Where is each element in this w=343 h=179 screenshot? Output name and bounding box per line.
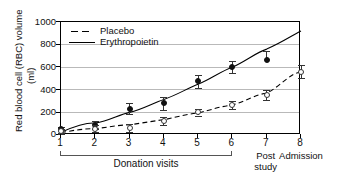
x-tick-label-2: 2 — [82, 137, 106, 148]
errorcap-pbo-4-bottom — [160, 125, 167, 126]
errorcap-epo-5-top — [195, 75, 202, 76]
errorcap-pbo-2-bottom — [92, 132, 99, 133]
errorcap-pbo-8-top — [298, 65, 305, 66]
x-cat-admission: Admission — [266, 151, 336, 162]
x-tick-label-6: 6 — [219, 137, 243, 148]
errorcap-epo-7-top — [263, 51, 270, 52]
datapoint-epo-3 — [127, 106, 133, 112]
x-tick-label-5: 5 — [185, 137, 209, 148]
donation-visits-bracket — [60, 151, 232, 156]
x-group-label-donation-visits: Donation visits — [60, 158, 232, 169]
errorcap-epo-3-top — [126, 103, 133, 104]
x-tick-label-4: 4 — [151, 137, 175, 148]
x-tick-label-7: 7 — [254, 137, 278, 148]
errorcap-pbo-6-bottom — [229, 109, 236, 110]
x-cat-post-study-line2: study — [243, 162, 289, 173]
datapoint-pbo-2 — [92, 126, 98, 132]
errorcap-epo-5-bottom — [195, 88, 202, 89]
errorcap-pbo-1-bottom — [58, 134, 65, 135]
x-tick-label-1: 1 — [48, 137, 72, 148]
errorcap-epo-3-bottom — [126, 114, 133, 115]
errorcap-pbo-8-bottom — [298, 78, 305, 79]
errorcap-pbo-5-bottom — [195, 116, 202, 117]
fit-curves — [61, 22, 301, 135]
y-tick-label-1000: 1000 — [24, 17, 56, 27]
plot-area: Placebo Erythropoietin — [60, 21, 300, 134]
errorcap-epo-4-top — [160, 97, 167, 98]
x-tick-label-8: 8 — [288, 137, 312, 148]
datapoint-pbo-7 — [264, 92, 270, 98]
chart-figure: Red blood cell (RBC) volume (ml) 1000 80… — [0, 0, 343, 179]
errorcap-pbo-7-top — [263, 90, 270, 91]
errorcap-pbo-3-bottom — [126, 132, 133, 133]
y-tick-label-200: 200 — [24, 107, 56, 117]
curve-erythropoietin — [61, 31, 301, 132]
y-tick-label-800: 800 — [24, 39, 56, 49]
errorcap-pbo-7-bottom — [263, 100, 270, 101]
datapoint-pbo-3 — [127, 125, 133, 131]
y-axis-title-line1: Red blood cell (RBC) volume — [13, 10, 24, 133]
x-tick-label-3: 3 — [117, 137, 141, 148]
errorcap-epo-6-top — [229, 61, 236, 62]
datapoint-pbo-4 — [161, 118, 167, 124]
y-tick-label-600: 600 — [24, 62, 56, 72]
errorcap-epo-6-bottom — [229, 73, 236, 74]
y-tick-label-400: 400 — [24, 85, 56, 95]
errorcap-epo-4-bottom — [160, 110, 167, 111]
datapoint-pbo-8 — [298, 69, 304, 75]
